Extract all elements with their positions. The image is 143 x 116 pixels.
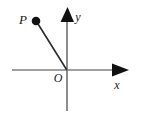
origin-label: O <box>54 71 63 85</box>
coordinate-plane-diagram: P O x y <box>0 0 143 116</box>
y-axis-label: y <box>74 10 81 24</box>
point-p-label: P <box>18 12 27 27</box>
x-axis-label: x <box>113 78 120 92</box>
diagram-canvas: P O x y <box>0 0 143 116</box>
point-p-marker <box>32 17 41 26</box>
